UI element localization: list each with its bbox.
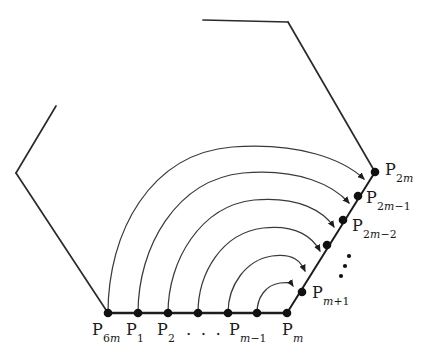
hexagon-outline: [16, 20, 375, 313]
ellipsis-dot-3: [339, 274, 343, 278]
vertex-p2m: [371, 168, 380, 177]
label-p1: P1: [126, 322, 144, 338]
ellipsis-dot-1: [347, 254, 351, 258]
hexagon-top-edge: [203, 20, 288, 22]
vertex-p2m-1: [354, 192, 363, 201]
label-pm-plus-1: Pm+1: [312, 285, 350, 301]
vertex-p6m: [104, 309, 113, 318]
vertex-pm+1: [298, 288, 307, 297]
vertex-p2: [164, 309, 173, 318]
vertex-p3: [194, 309, 203, 318]
figure-canvas: P6m P1 P2 · · · Pm−1 Pm Pm+1 P2m−2 P2m−1…: [0, 0, 428, 360]
vertex-pm: [283, 309, 292, 318]
hexagon-upper-left-edge: [16, 106, 56, 173]
ellipsis-dot-2: [343, 264, 347, 268]
label-p2: P2: [157, 322, 175, 338]
label-pm: Pm: [282, 322, 303, 338]
hexagon-arc-diagram: [0, 0, 428, 360]
hexagon-upper-right-edge: [288, 22, 375, 172]
vertex-pm-1: [253, 309, 262, 318]
bottom-row-ellipsis: · · ·: [186, 326, 223, 343]
label-pm-minus-1: Pm−1: [229, 322, 267, 338]
arc-p2-to-p2m-2: [168, 199, 334, 313]
arc-pm-1-to-pm+1: [257, 283, 293, 313]
label-p2m: P2m: [385, 162, 413, 178]
label-p2m-minus-2: P2m−2: [352, 218, 397, 234]
hexagon-lower-left-edge: [16, 173, 108, 313]
label-p6m: P6m: [92, 322, 120, 338]
vertex-p4: [224, 309, 233, 318]
vertical-ellipsis-dots: [339, 254, 351, 278]
label-p2m-minus-1: P2m−1: [366, 190, 411, 206]
vertex-p1: [134, 309, 143, 318]
vertex-p2m-2: [339, 216, 348, 225]
vertex-pdot-a: [323, 241, 332, 250]
